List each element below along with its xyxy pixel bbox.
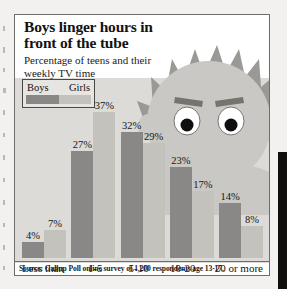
chart-figure: Boys linger hours in front of the tube P… [14,14,270,276]
bar-value-label: 17% [193,179,212,190]
bar-girls[interactable]: 8% [241,226,263,258]
scan-artifact [3,178,5,182]
bar-slot: 32% [121,78,143,258]
scan-artifact [3,88,6,93]
scan-artifact [3,47,5,53]
scan-artifact [3,200,5,205]
bar-slot: 17% [192,78,214,258]
bar-value-label: 23% [171,155,190,166]
legend-labels: Boys Girls [26,82,91,93]
bar-value-label: 8% [245,214,259,225]
bar-value-label: 32% [122,120,141,131]
scan-artifact [3,266,5,270]
legend-swatch-boys [26,95,59,104]
bar-value-label: 4% [26,230,40,241]
scan-artifact [3,110,5,115]
page-edge-shadow [278,152,287,289]
bar-girls[interactable]: 17% [192,191,214,258]
scan-artifact [3,155,5,160]
legend-swatches [26,95,91,104]
bar-value-label: 37% [95,100,114,111]
bar-group: 23%17% [170,78,214,258]
page-title: Boys linger hours in front of the tube [24,19,174,51]
scan-artifact [3,133,5,137]
legend-label-girls: Girls [69,82,90,93]
bar-value-label: 27% [73,139,92,150]
bar-boys[interactable]: 32% [121,132,143,258]
chart-subtitle: Percentage of teens and their weekly TV … [24,54,174,79]
bar-boys[interactable]: 14% [219,203,241,258]
bar-slot: 14% [219,78,241,258]
bar-value-label: 7% [48,218,62,229]
bar-slot: 23% [170,78,192,258]
bar-girls[interactable]: 37% [93,112,115,258]
source-note: Source: Gallup Poll online survey of 1,2… [19,264,224,273]
headline-block: Boys linger hours in front of the tube P… [24,19,174,79]
bar-group: 32%29% [121,78,165,258]
bar-slot: 29% [143,78,165,258]
bar-boys[interactable]: 4% [22,242,44,258]
legend-label-boys: Boys [27,82,49,93]
scan-artifact [3,223,5,227]
bar-boys[interactable]: 23% [170,167,192,258]
scan-artifact [3,68,5,72]
bar-girls[interactable]: 7% [44,230,66,258]
chart-legend: Boys Girls [22,79,95,108]
scan-artifact [3,245,5,250]
bar-girls[interactable]: 29% [143,143,165,258]
legend-swatch-girls [59,95,92,104]
bar-boys[interactable]: 27% [71,151,93,258]
bar-value-label: 29% [144,131,163,142]
bar-slot: 37% [93,78,115,258]
bar-slot: 8% [241,78,263,258]
scan-artifact [3,26,5,31]
bar-value-label: 14% [220,191,239,202]
scanned-page-background: Boys linger hours in front of the tube P… [0,0,287,289]
bar-group: 14%8% [219,78,263,258]
